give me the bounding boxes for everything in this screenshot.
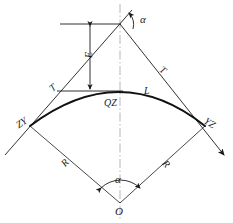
angle-arc-top (129, 13, 134, 29)
tangent-line-right (120, 24, 224, 155)
curve-geometry-diagram: α E T T L QZ ZY YZ R R α O (0, 0, 233, 223)
angle-label-alpha-top: α (140, 14, 146, 25)
tangent-line-left (5, 10, 132, 155)
angle-label-alpha-bottom: α (115, 174, 121, 185)
curve-midpoint-label: QZ (104, 98, 117, 108)
external-distance-label: E (84, 52, 94, 58)
circle-center-label: O (115, 206, 123, 217)
diagram-canvas (0, 0, 233, 223)
curve-length-label: L (144, 86, 150, 96)
radius-line-left (30, 126, 120, 203)
